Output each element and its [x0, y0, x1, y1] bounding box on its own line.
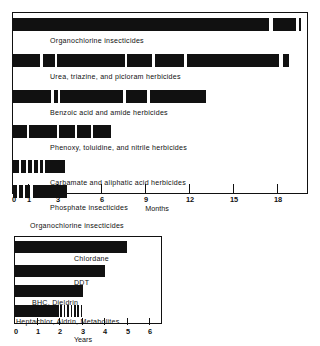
ticklabel-1: 1: [36, 327, 40, 336]
bar-label-urea-triazine-picloram-herbicides: Urea, triazine, and picloram herbicides: [50, 73, 181, 82]
tick-3: [57, 184, 58, 193]
tick-15: [233, 184, 234, 193]
bar-label-benzoic-acid-amide-herbicides: Benzoic acid and amide herbicides: [50, 109, 168, 118]
ticklabel-0: 0: [12, 195, 16, 204]
ticklabel-0: 0: [14, 327, 18, 336]
ticklabel-18: 18: [274, 195, 282, 204]
ticklabel-4: 4: [103, 327, 107, 336]
tick-1: [37, 318, 38, 325]
bar-carbamate-aliphatic-acid-herbicides: [13, 160, 65, 173]
months-chart: Organochlorine insecticides Urea, triazi…: [12, 12, 308, 208]
tick-5: [127, 318, 128, 325]
bar-label-phosphate-insecticides: Phosphate insecticides: [50, 204, 128, 213]
tick-18: [277, 184, 278, 193]
ticklabel-1: 1: [27, 195, 31, 204]
years-axis-title: Years: [74, 335, 92, 344]
bar-label-phenoxy-toluidine-nitrile-herbicides: Phenoxy, toluidine, and nitrile herbicid…: [50, 144, 187, 153]
tick-9: [145, 184, 146, 193]
ticklabel-6: 6: [100, 195, 104, 204]
bar-heptachlor-aldrin-metabolites: [15, 305, 83, 317]
bar-label-organochlorine-insecticides: Organochlorine insecticides: [50, 37, 144, 46]
ticklabel-5: 5: [126, 327, 130, 336]
ticklabel-9: 9: [144, 195, 148, 204]
tick-4: [104, 318, 105, 325]
tick-2: [59, 318, 60, 325]
bar-organochlorine-insecticides: [13, 18, 301, 31]
tick-6: [101, 184, 102, 193]
bar-benzoic-acid-amide-herbicides: [13, 90, 206, 103]
ticklabel-3: 3: [56, 195, 60, 204]
tick-3: [82, 318, 83, 325]
ticklabel-2: 2: [58, 327, 62, 336]
tick-6: [149, 318, 150, 325]
years-chart-title: Organochlorine insecticides: [30, 222, 124, 230]
tick-1: [28, 184, 29, 193]
bar-label-chlordane: Chlordane: [74, 255, 109, 264]
tick-12: [189, 184, 190, 193]
months-axis-title: Months: [145, 204, 169, 213]
bar-urea-triazine-picloram-herbicides: [13, 54, 289, 67]
bar-phenoxy-toluidine-nitrile-herbicides: [13, 125, 111, 138]
bar-ddt: [15, 265, 105, 277]
bar-bhc-dieldrin: [15, 285, 83, 297]
bar-chlordane: [15, 241, 127, 253]
ticklabel-6: 6: [148, 327, 152, 336]
ticklabel-15: 15: [230, 195, 238, 204]
years-chart: Organochlorine insecticides Chlordane DD…: [14, 222, 164, 344]
bar-label-carbamate-aliphatic-acid-herbicides: Carbamate and aliphatic acid herbicides: [50, 179, 186, 188]
ticklabel-12: 12: [186, 195, 194, 204]
